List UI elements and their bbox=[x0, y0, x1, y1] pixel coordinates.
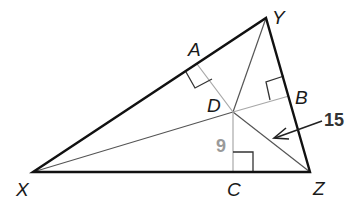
measurement-DC: 9 bbox=[216, 136, 226, 156]
segment-DX bbox=[33, 112, 233, 172]
perpendicular-DB bbox=[233, 96, 289, 112]
label-X: X bbox=[15, 179, 30, 200]
label-A: A bbox=[187, 39, 201, 60]
label-Z: Z bbox=[312, 178, 326, 199]
right-angle-mark-A bbox=[186, 72, 212, 88]
label-B: B bbox=[295, 87, 308, 108]
right-angle-mark-B bbox=[266, 76, 284, 100]
label-Y: Y bbox=[272, 7, 286, 28]
measurement-DZ: 15 bbox=[324, 110, 344, 130]
segment-DZ bbox=[233, 112, 310, 172]
label-C: C bbox=[227, 179, 241, 200]
right-angle-mark-C bbox=[233, 152, 253, 172]
label-D: D bbox=[207, 95, 221, 116]
segment-DY bbox=[233, 18, 266, 112]
geometry-diagram: X Y Z A B C D 9 15 bbox=[0, 0, 360, 209]
